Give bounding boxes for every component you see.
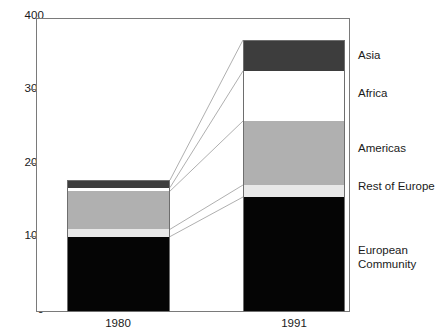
bar-1991-segment-european-community	[243, 197, 345, 312]
legend-item-asia: Asia	[358, 49, 380, 63]
bar-1980-segment-rest-of-europe	[67, 229, 170, 236]
chart-container: 400 300 200 100 0 1980 1991	[0, 0, 440, 334]
bar-1991-segment-americas	[243, 121, 345, 185]
legend-item-americas: Americas	[358, 142, 406, 156]
legend-item-rest-of-europe: Rest of Europe	[358, 180, 435, 194]
bar-1991-segment-africa	[243, 71, 345, 121]
x-axis-tick-label-1980: 1980	[78, 318, 158, 330]
legend-item-european-community: European Community	[358, 244, 416, 271]
bar-1991[interactable]	[243, 40, 345, 312]
bar-1980[interactable]	[67, 180, 170, 312]
x-axis-tick-label-1991: 1991	[254, 318, 334, 330]
bar-1980-segment-americas	[67, 191, 170, 229]
bar-1991-segment-asia	[243, 40, 345, 71]
bar-1980-segment-asia	[67, 180, 170, 188]
legend-item-africa: Africa	[358, 87, 387, 101]
bar-1991-segment-rest-of-europe	[243, 185, 345, 197]
bar-1980-segment-european-community	[67, 237, 170, 312]
